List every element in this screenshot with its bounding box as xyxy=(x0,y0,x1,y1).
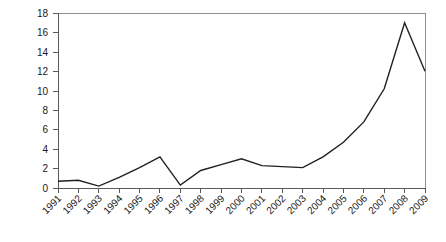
y-tick-label-12: 12 xyxy=(37,66,49,77)
y-tick-label-16: 16 xyxy=(37,27,49,38)
y-axis: 0 2 4 6 8 10 12 14 16 18 xyxy=(37,8,58,194)
x-tick-label-1998: 1998 xyxy=(183,192,207,216)
x-tick-label-2001: 2001 xyxy=(244,192,268,216)
x-tick-label-1992: 1992 xyxy=(60,192,84,216)
series-line-1 xyxy=(58,23,425,186)
y-tick-label-6: 6 xyxy=(42,124,48,135)
x-tick-label-2007: 2007 xyxy=(366,192,390,216)
y-tick-label-2: 2 xyxy=(42,163,48,174)
x-tick-label-1995: 1995 xyxy=(121,192,145,216)
x-tick-label-2003: 2003 xyxy=(285,192,309,216)
x-tick-label-2005: 2005 xyxy=(325,192,349,216)
x-tick-label-1997: 1997 xyxy=(162,192,186,216)
x-tick-label-2009: 2009 xyxy=(407,192,431,216)
x-axis-ticks xyxy=(58,188,425,193)
chart-plot-frame xyxy=(58,13,425,188)
y-tick-label-0: 0 xyxy=(42,183,48,194)
y-tick-label-8: 8 xyxy=(42,105,48,116)
y-tick-label-4: 4 xyxy=(42,144,48,155)
x-tick-label-2002: 2002 xyxy=(264,192,288,216)
x-axis: 1991199219931994199519961997199819992000… xyxy=(40,188,431,216)
y-tick-label-14: 14 xyxy=(37,47,49,58)
data-series-group xyxy=(58,23,425,186)
y-tick-label-18: 18 xyxy=(37,8,49,19)
chart-canvas: 0 2 4 6 8 10 12 14 16 18 199119921993199… xyxy=(0,0,446,242)
y-axis-ticks xyxy=(53,13,58,188)
x-tick-label-2006: 2006 xyxy=(346,192,370,216)
x-tick-label-2008: 2008 xyxy=(387,192,411,216)
y-axis-tick-labels: 0 2 4 6 8 10 12 14 16 18 xyxy=(37,8,49,194)
x-tick-label-2000: 2000 xyxy=(223,192,247,216)
x-tick-label-1996: 1996 xyxy=(142,192,166,216)
x-tick-label-1993: 1993 xyxy=(81,192,105,216)
x-tick-label-2004: 2004 xyxy=(305,192,329,216)
y-tick-label-10: 10 xyxy=(37,86,49,97)
x-tick-label-1999: 1999 xyxy=(203,192,227,216)
x-axis-tick-labels: 1991199219931994199519961997199819992000… xyxy=(40,192,431,216)
x-tick-label-1994: 1994 xyxy=(101,192,125,216)
x-tick-label-1991: 1991 xyxy=(40,192,64,216)
line-chart: 0 2 4 6 8 10 12 14 16 18 199119921993199… xyxy=(0,0,446,242)
